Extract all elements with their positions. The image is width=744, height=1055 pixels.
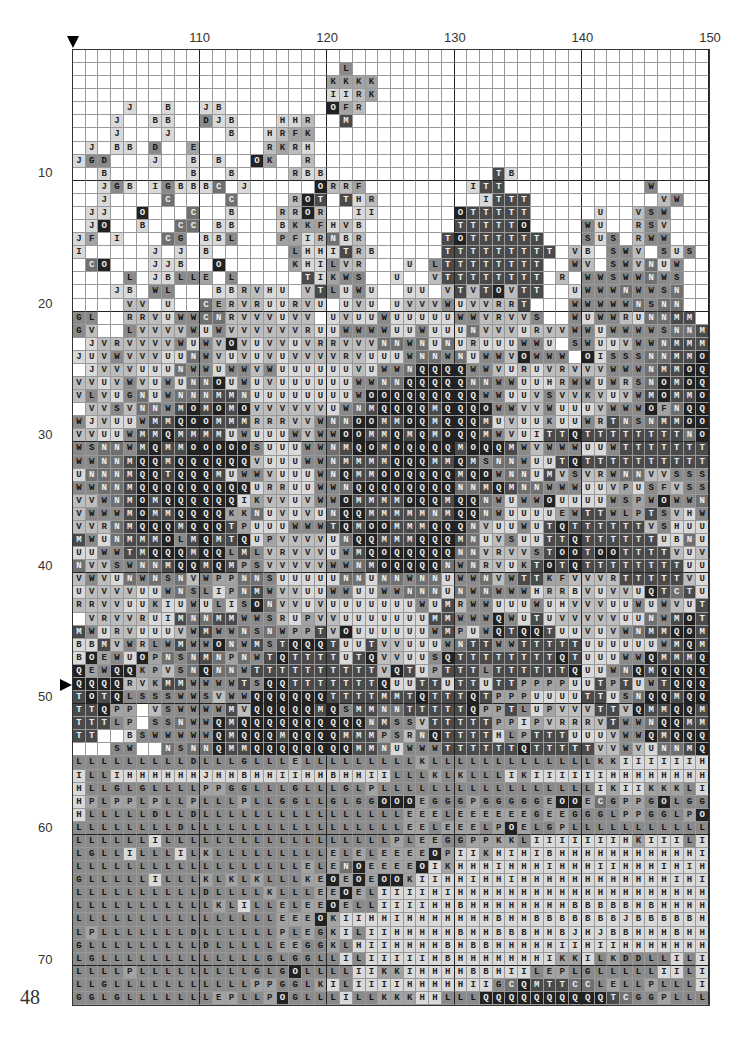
grid-cell	[404, 63, 417, 76]
grid-cell: E	[391, 861, 404, 874]
grid-cell: L	[251, 822, 264, 835]
grid-cell: L	[200, 586, 213, 599]
grid-cell	[187, 89, 200, 102]
grid-cell	[607, 76, 620, 89]
grid-cell: I	[124, 848, 137, 861]
grid-cell: G	[480, 796, 493, 809]
grid-cell: I	[671, 835, 684, 848]
grid-cell: W	[582, 272, 595, 285]
grid-cell: W	[327, 560, 340, 573]
grid-cell: L	[200, 913, 213, 926]
grid-cell: V	[595, 743, 608, 756]
grid-cell: Q	[111, 691, 124, 704]
grid-cell: V	[595, 613, 608, 626]
grid-cell: P	[556, 966, 569, 979]
grid-cell	[455, 155, 468, 168]
grid-cell: T	[480, 207, 493, 220]
grid-cell: W	[366, 377, 379, 390]
grid-cell: L	[327, 783, 340, 796]
grid-cell: L	[595, 966, 608, 979]
grid-cell	[137, 168, 150, 181]
grid-cell	[684, 102, 697, 115]
grid-cell	[73, 285, 86, 298]
grid-cell: M	[684, 390, 697, 403]
grid-cell: U	[226, 351, 239, 364]
grid-cell: U	[73, 547, 86, 560]
grid-cell: T	[98, 691, 111, 704]
grid-cell	[213, 207, 226, 220]
grid-cell: N	[620, 665, 633, 678]
grid-cell: W	[391, 364, 404, 377]
grid-cell: N	[162, 652, 175, 665]
grid-cell: I	[416, 900, 429, 913]
grid-cell: U	[137, 599, 150, 612]
grid-cell: L	[620, 822, 633, 835]
grid-cell: I	[467, 848, 480, 861]
grid-cell: Q	[213, 482, 226, 495]
grid-cell: L	[111, 756, 124, 769]
grid-cell: M	[98, 639, 111, 652]
grid-cell: V	[315, 403, 328, 416]
grid-cell: Q	[327, 717, 340, 730]
grid-cell	[696, 63, 709, 76]
grid-cell: T	[505, 194, 518, 207]
grid-cell: I	[391, 900, 404, 913]
grid-cell: W	[556, 482, 569, 495]
grid-cell: I	[277, 770, 290, 783]
grid-cell: U	[404, 599, 417, 612]
grid-cell: L	[98, 887, 111, 900]
grid-cell: M	[696, 704, 709, 717]
grid-cell	[251, 246, 264, 259]
grid-cell: W	[480, 599, 493, 612]
grid-cell: L	[416, 770, 429, 783]
grid-cell: N	[429, 586, 442, 599]
grid-cell: O	[467, 442, 480, 455]
grid-cell: U	[569, 495, 582, 508]
grid-cell: H	[658, 927, 671, 940]
grid-cell: K	[366, 89, 379, 102]
grid-cell: V	[480, 547, 493, 560]
grid-cell: U	[607, 338, 620, 351]
grid-cell: J	[111, 285, 124, 298]
grid-cell	[86, 285, 99, 298]
grid-cell: Q	[187, 508, 200, 521]
grid-cell: L	[124, 900, 137, 913]
grid-cell	[264, 220, 277, 233]
grid-cell: U	[391, 325, 404, 338]
grid-cell: L	[137, 913, 150, 926]
grid-cell: P	[187, 796, 200, 809]
grid-cell: B	[658, 913, 671, 926]
grid-cell: Q	[340, 469, 353, 482]
grid-cell: W	[226, 678, 239, 691]
grid-cell	[137, 704, 150, 717]
grid-cell: H	[531, 900, 544, 913]
grid-cell	[696, 128, 709, 141]
grid-cell	[124, 50, 137, 63]
grid-cell: H	[696, 940, 709, 953]
grid-cell: B	[302, 168, 315, 181]
grid-cell: T	[518, 207, 531, 220]
grid-cell: V	[595, 390, 608, 403]
grid-cell: L	[340, 822, 353, 835]
grid-cell: L	[340, 979, 353, 992]
grid-cell: L	[277, 835, 290, 848]
grid-cell: T	[582, 560, 595, 573]
grid-cell: V	[264, 547, 277, 560]
grid-cell: E	[544, 809, 557, 822]
grid-cell: Q	[213, 560, 226, 573]
grid-cell: M	[149, 495, 162, 508]
grid-cell	[671, 76, 684, 89]
grid-cell: J	[149, 259, 162, 272]
grid-cell: V	[315, 613, 328, 626]
grid-cell: R	[137, 613, 150, 626]
grid-cell: Q	[200, 521, 213, 534]
grid-cell: V	[696, 547, 709, 560]
grid-cell: B	[582, 913, 595, 926]
grid-cell	[378, 168, 391, 181]
grid-cell	[467, 76, 480, 89]
grid-cell: I	[696, 979, 709, 992]
grid-cell: R	[226, 312, 239, 325]
grid-cell: V	[302, 416, 315, 429]
grid-cell: B	[518, 927, 531, 940]
grid-cell: T	[518, 246, 531, 259]
